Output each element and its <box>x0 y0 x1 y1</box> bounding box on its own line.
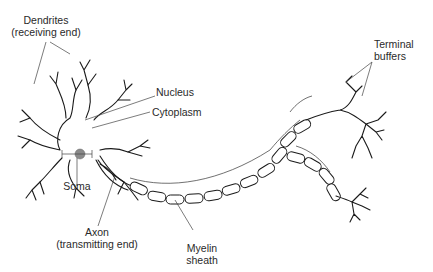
label-terminal-buffers: Terminal buffers <box>374 38 414 62</box>
soma-body <box>18 60 150 200</box>
label-cytoplasm: Cytoplasm <box>152 106 202 118</box>
label-myelin-sheath: Myelin sheath <box>178 242 226 266</box>
label-pointers <box>34 42 372 230</box>
neuron-diagram: Dendrites (receiving end) Nucleus Cytopl… <box>0 0 433 272</box>
label-soma: Soma <box>62 180 92 192</box>
label-dendrites: Dendrites (receiving end) <box>6 14 86 38</box>
terminal-upper <box>306 76 386 158</box>
label-nucleus: Nucleus <box>156 86 194 98</box>
terminal-lower <box>336 188 370 222</box>
myelin-segments <box>129 118 342 204</box>
label-axon: Axon (transmitting end) <box>52 226 142 250</box>
